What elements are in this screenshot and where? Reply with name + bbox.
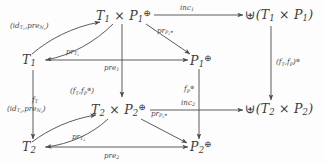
edge-label-pre2: pre2 — [104, 152, 119, 160]
edge-label-pr-p1: prP1⊕ — [157, 27, 173, 36]
node-coproduct-2: ⊎(T2 × P2) — [245, 103, 313, 117]
edge-label-inc2: inc2 — [181, 99, 195, 107]
edge-pr-p2 — [141, 119, 187, 143]
edge-label-pair2: (idT2,preN2) — [7, 105, 46, 114]
node-product-2: T2 × P2⊕ — [91, 103, 146, 118]
edge-label-pr-p2: prP2⊕ — [151, 110, 167, 119]
edge-label-inc1: inc1 — [180, 4, 194, 12]
edge-label-pair-prod: (fT,fP⊕) — [70, 87, 94, 95]
node-p1: P1⊕ — [190, 54, 212, 69]
edge-label-ft: fT — [32, 96, 38, 104]
edge-label-pr-t2: prT2 — [72, 133, 85, 142]
edge-label-pair1: (idT1,preN1) — [10, 22, 49, 31]
diagram-edges — [0, 0, 325, 164]
commutative-diagram: T1 × P1⊕ ⊎(T1 × P1) T1 P1⊕ T2 × P2⊕ ⊎(T2… — [0, 0, 325, 164]
edge-label-pr-t1: prT1 — [66, 48, 79, 57]
node-t2: T2 — [22, 141, 36, 155]
node-coproduct-1: ⊎(T1 × P1) — [245, 9, 313, 23]
edge-label-pair-sum: (fT,fP)⊕ — [276, 58, 300, 66]
edge-pair2 — [32, 115, 96, 142]
edge-pr-t1 — [46, 24, 113, 60]
node-t1: T1 — [22, 54, 36, 68]
edge-label-pre1: pre1 — [104, 64, 119, 72]
edge-label-fp: fP⊕ — [184, 85, 194, 93]
node-p2: P2⊕ — [190, 140, 212, 155]
node-product-1: T1 × P1⊕ — [96, 9, 151, 24]
